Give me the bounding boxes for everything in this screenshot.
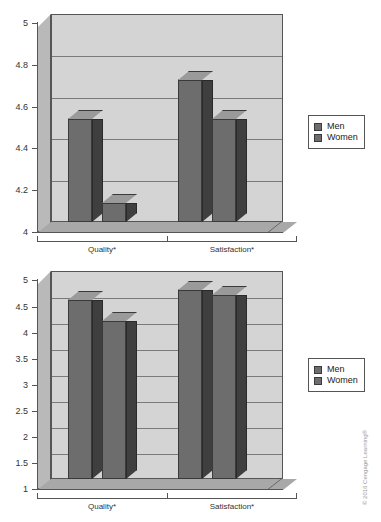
gridline (52, 56, 282, 57)
y-tick-label: 4.8 (2, 61, 28, 70)
bar-side-face (126, 203, 137, 222)
bar-front-face (68, 300, 92, 479)
chart-top-legend: Men Women (308, 115, 365, 149)
y-tick-label: 4.4 (2, 144, 28, 153)
legend-item-women: Women (314, 133, 358, 142)
legend-item-men: Men (314, 122, 358, 131)
x-category-label: Quality* (62, 502, 142, 511)
bar-side-face (126, 321, 137, 479)
y-tick (32, 190, 37, 191)
bar-satisfaction-women (212, 119, 247, 222)
x-tick (167, 493, 168, 499)
y-tick-label: 4 (2, 329, 28, 338)
y-tick (32, 280, 37, 281)
legend-label-women: Women (327, 133, 358, 142)
y-tick (32, 359, 37, 360)
bar-side-face (236, 295, 247, 479)
legend-swatch-men (314, 366, 322, 374)
y-tick (32, 385, 37, 386)
bar-front-face (68, 119, 92, 222)
x-tick (296, 493, 297, 499)
x-category-label: Quality* (62, 245, 142, 254)
bar-side-face (236, 119, 247, 222)
y-tick-label: 1.5 (2, 459, 28, 468)
y-tick-label: 4.5 (2, 303, 28, 312)
y-tick (32, 307, 37, 308)
y-tick-label: 1 (2, 485, 28, 494)
x-tick (296, 236, 297, 242)
legend-label-men: Men (327, 365, 345, 374)
bar-quality-men (68, 300, 103, 479)
legend-swatch-women (314, 134, 322, 142)
y-tick-label: 4.2 (2, 186, 28, 195)
y-tick-label: 2 (2, 433, 28, 442)
y-tick-label: 5 (2, 276, 28, 285)
chart-top: 4 4.2 4.4 4.6 4.8 5 Quality* Satisfactio… (0, 0, 381, 261)
x-category-label: Satisfaction* (192, 502, 272, 511)
legend-label-men: Men (327, 122, 345, 131)
y-tick (32, 107, 37, 108)
bar-satisfaction-men (178, 80, 213, 222)
x-tick (37, 493, 38, 499)
legend-item-men: Men (314, 365, 358, 374)
y-tick-label: 5 (2, 19, 28, 28)
chart-top-base-front (37, 232, 283, 233)
x-tick (167, 236, 168, 242)
copyright-notice: © 2016 Cengage Learning® (362, 430, 368, 505)
y-tick-label: 3 (2, 381, 28, 390)
y-tick (32, 463, 37, 464)
bar-quality-women (102, 203, 137, 222)
y-tick (32, 437, 37, 438)
bar-quality-women (102, 321, 137, 479)
bar-satisfaction-women (212, 295, 247, 479)
chart-bottom-left-wall (37, 271, 51, 489)
bar-satisfaction-men (178, 290, 213, 479)
chart-bottom-base-front (37, 489, 283, 490)
y-tick (32, 65, 37, 66)
y-tick (32, 489, 37, 490)
y-tick-label: 3.5 (2, 355, 28, 364)
y-tick (32, 333, 37, 334)
chart-bottom-legend: Men Women (308, 358, 365, 392)
bar-front-face (212, 295, 236, 479)
bar-front-face (102, 203, 126, 222)
bar-front-face (212, 119, 236, 222)
legend-label-women: Women (327, 376, 358, 385)
legend-swatch-women (314, 377, 322, 385)
y-tick (32, 411, 37, 412)
chart-bottom-y-axis (37, 279, 38, 490)
bar-quality-men (68, 119, 103, 222)
chart-top-left-wall (37, 14, 51, 232)
y-tick-label: 2.5 (2, 407, 28, 416)
y-tick (32, 148, 37, 149)
gridline (52, 98, 282, 99)
y-tick-label: 4 (2, 228, 28, 237)
bar-front-face (102, 321, 126, 479)
y-tick (32, 23, 37, 24)
legend-item-women: Women (314, 376, 358, 385)
bar-front-face (178, 290, 202, 479)
chart-bottom: 1 1.5 2 2.5 3 3.5 4 4.5 5 Quality* Satis… (0, 261, 381, 522)
bar-front-face (178, 80, 202, 222)
y-tick (32, 232, 37, 233)
y-tick-label: 4.6 (2, 103, 28, 112)
legend-swatch-men (314, 123, 322, 131)
x-category-label: Satisfaction* (192, 245, 272, 254)
chart-top-y-axis (37, 22, 38, 233)
x-tick (37, 236, 38, 242)
